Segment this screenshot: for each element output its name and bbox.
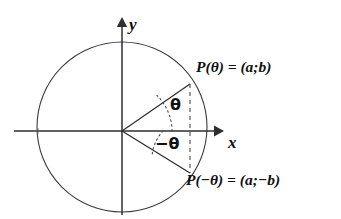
point-label-p-theta: P(θ) = (a;b) (196, 59, 271, 75)
angle-label-theta: θ (170, 97, 181, 113)
x-axis-arrowhead (214, 126, 224, 137)
y-axis-arrowhead (117, 17, 127, 27)
angle-label-negative-theta: −θ (155, 136, 179, 152)
y-axis-label: y (129, 16, 137, 33)
point-label-p-negative-theta: P(−θ) = (a;−b) (186, 172, 280, 188)
figure-canvas: y x P(θ) = (a;b) P(−θ) = (a;−b) θ −θ (0, 0, 341, 219)
x-axis-label: x (228, 134, 237, 151)
